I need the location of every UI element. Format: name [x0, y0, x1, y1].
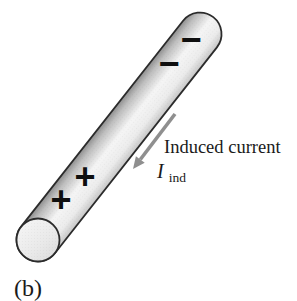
figure-caption: (b) — [14, 275, 42, 301]
positive-charge-icon: + — [50, 179, 71, 220]
negative-charge-icon: − — [180, 19, 201, 60]
rod-diagram-canvas: − − + + Induced current I ind (b) — [0, 0, 297, 301]
current-symbol-label: I ind — [156, 160, 186, 185]
positive-charge-icon: + — [74, 156, 95, 197]
induced-current-label: Induced current — [164, 137, 281, 157]
negative-charge-icon: − — [158, 43, 179, 84]
figure-induced-current-rod: − − + + Induced current I ind (b) — [0, 0, 297, 301]
rod-end-face — [17, 219, 60, 262]
